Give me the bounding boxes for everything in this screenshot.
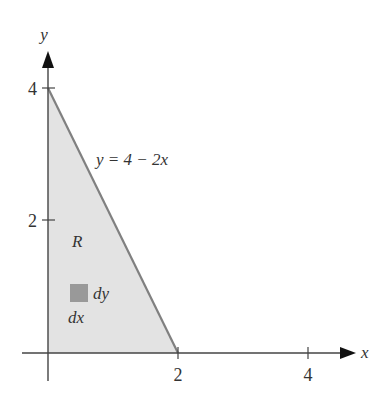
y-tick-label-4: 4: [28, 79, 37, 99]
dx-label: dx: [68, 308, 85, 327]
y-axis-label: y: [38, 25, 48, 44]
y-axis-arrow-icon: [42, 51, 54, 68]
x-axis-label: x: [360, 343, 369, 362]
x-tick-label-2: 2: [174, 365, 183, 385]
region-diagram: y x 4 2 2 4 y = 4 − 2x R dy dx: [0, 0, 384, 407]
x-axis-arrow-icon: [340, 347, 356, 359]
x-tick-label-4: 4: [304, 365, 313, 385]
region-label: R: [71, 232, 83, 251]
curve-label: y = 4 − 2x: [94, 150, 168, 169]
dy-label: dy: [93, 284, 110, 303]
area-element-square: [70, 284, 88, 302]
y-tick-label-2: 2: [28, 211, 37, 231]
